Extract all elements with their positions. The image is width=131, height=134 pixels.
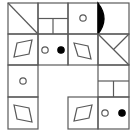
- cell-r1-c0: [8, 34, 38, 65]
- parallelogram-icon: [74, 43, 91, 59]
- open-circle-icon: [42, 47, 48, 53]
- open-circle-icon: [80, 15, 86, 21]
- cell-r1-c1: [38, 34, 68, 65]
- cell-r1-c3: [98, 34, 129, 65]
- filled-dot-icon: [58, 47, 64, 53]
- filled-dot-icon: [119, 110, 125, 116]
- cell-r0-c0: [8, 3, 38, 34]
- cell-r0-c1: [38, 3, 68, 34]
- cell-r3-c3: [98, 97, 129, 129]
- cell-r3-c0: [8, 97, 38, 129]
- puzzle-grid: [0, 0, 131, 134]
- open-circle-icon: [20, 78, 26, 84]
- cell-r2-c3: [98, 65, 129, 97]
- cell-r3-c2: [68, 97, 98, 129]
- diagonal-line-icon: [8, 3, 38, 34]
- half-lens-icon: [98, 3, 104, 34]
- open-circle-icon: [102, 110, 108, 116]
- cell-r0-c3: [98, 3, 129, 34]
- parallelogram-icon: [14, 105, 32, 122]
- cell-r2-c0: [8, 65, 38, 97]
- cell-r1-c2: [68, 34, 98, 65]
- parallelogram-icon: [14, 40, 32, 57]
- parallelogram-icon: [74, 105, 92, 121]
- cell-r0-c2: [68, 3, 98, 34]
